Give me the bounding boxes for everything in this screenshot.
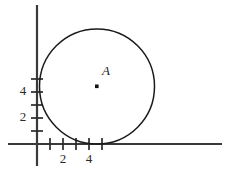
x-tick-label-4: 4 [86, 151, 93, 166]
y-tick-label-4: 4 [20, 83, 27, 98]
y-tick-label-2: 2 [20, 109, 27, 124]
point-a-marker [95, 85, 99, 89]
figure-canvas: A 2 4 2 4 [0, 0, 235, 184]
point-a-label: A [101, 63, 110, 78]
x-tick-label-2: 2 [60, 151, 67, 166]
geometry-diagram: A 2 4 2 4 [0, 0, 235, 184]
